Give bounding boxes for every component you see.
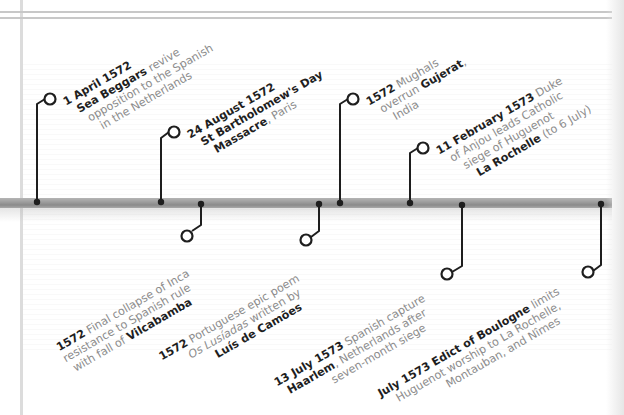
marker-ring bbox=[45, 94, 56, 105]
marker-ring bbox=[169, 127, 180, 138]
marker-ring bbox=[348, 94, 359, 105]
marker-ring bbox=[418, 143, 429, 154]
marker-ring bbox=[583, 267, 594, 278]
marker-ring bbox=[442, 269, 453, 280]
bar-dot bbox=[316, 201, 322, 207]
bar-dot bbox=[34, 199, 40, 205]
bar-dot bbox=[598, 201, 604, 207]
bar-dot bbox=[198, 201, 204, 207]
bar-dot bbox=[158, 199, 164, 205]
connector-sea-beggars bbox=[37, 99, 45, 202]
connector-mughals bbox=[340, 99, 348, 202]
bar-dot bbox=[459, 202, 465, 208]
connector-vilcabamba bbox=[192, 204, 201, 231]
marker-ring bbox=[182, 231, 193, 242]
timeline-page: 1 April 1572 Sea Beggars revive oppositi… bbox=[0, 0, 624, 415]
connector-st-bartholomew bbox=[161, 132, 169, 202]
connector-haarlem bbox=[452, 204, 462, 272]
bar-dot bbox=[407, 200, 413, 206]
connector-lusiadas bbox=[311, 204, 319, 237]
marker-ring bbox=[301, 235, 312, 246]
connector-boulogne bbox=[593, 204, 601, 271]
page-edge-shadow bbox=[606, 0, 624, 415]
connector-la-rochelle bbox=[410, 148, 418, 202]
bar-dot bbox=[337, 200, 343, 206]
